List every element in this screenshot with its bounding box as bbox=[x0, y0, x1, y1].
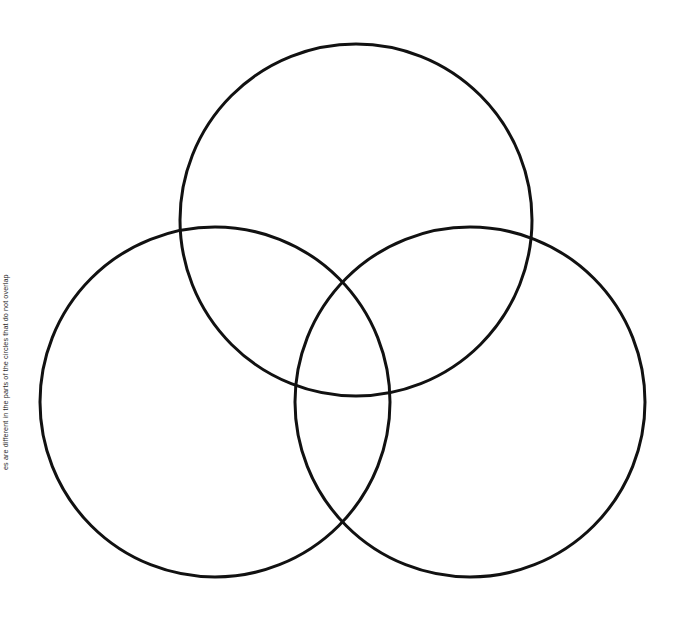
diagram-canvas: es are different in the parts of the cir… bbox=[0, 0, 684, 618]
venn-circle-right[interactable] bbox=[295, 227, 645, 577]
venn-diagram bbox=[0, 0, 684, 618]
venn-circle-left[interactable] bbox=[40, 227, 390, 577]
venn-circle-top[interactable] bbox=[180, 44, 532, 396]
